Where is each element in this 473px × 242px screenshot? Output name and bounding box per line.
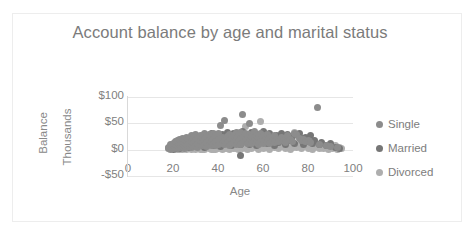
y-axis-title: Balance (37, 88, 49, 178)
y-tick-label: $50 (105, 115, 124, 127)
gridline (128, 97, 353, 98)
y-axis-tick-labels: $100$50$0-$50 (60, 88, 124, 198)
scatter-point (334, 144, 341, 151)
legend-item-divorced[interactable]: Divorced (376, 160, 466, 184)
scatter-point (239, 111, 246, 118)
scatter-point (314, 104, 321, 111)
y-tick-label: $100 (98, 89, 124, 101)
chart-title: Account balance by age and marital statu… (60, 22, 400, 43)
y-tick-label: $0 (111, 142, 124, 154)
scatter-point (316, 141, 323, 148)
legend-label: Married (388, 142, 427, 154)
legend-marker-icon (376, 169, 383, 176)
scatter-point (221, 117, 228, 124)
legend-label: Divorced (388, 166, 433, 178)
scatter-point (246, 120, 253, 127)
chart-container: Account balance by age and marital statu… (0, 0, 473, 242)
legend-marker-icon (376, 145, 383, 152)
gridline (128, 176, 353, 177)
legend-label: Single (388, 118, 420, 130)
legend-item-married[interactable]: Married (376, 136, 466, 160)
legend-marker-icon (376, 121, 383, 128)
scatter-plot-area (128, 97, 353, 176)
scatter-point (327, 143, 334, 150)
x-axis-title: Age (175, 185, 305, 197)
scatter-point (289, 138, 296, 145)
legend-item-single[interactable]: Single (376, 112, 466, 136)
gridline (128, 123, 353, 124)
chart-legend: SingleMarriedDivorced (376, 112, 466, 184)
scatter-point (237, 152, 244, 159)
